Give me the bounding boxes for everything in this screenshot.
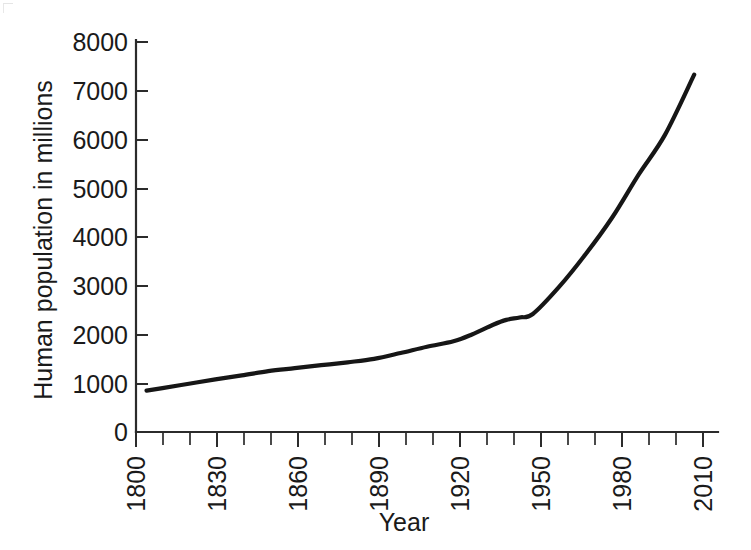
x-tick-label: 1980 (608, 456, 636, 512)
y-tick-label: 6000 (72, 126, 128, 154)
y-axis-ticks (136, 42, 148, 432)
y-tick-label: 3000 (72, 272, 128, 300)
x-tick-label: 1920 (446, 456, 474, 512)
x-tick-label: 1800 (122, 456, 150, 512)
x-tick-label: 1830 (203, 456, 231, 512)
y-tick-label: 4000 (72, 223, 128, 251)
x-axis-title: Year (379, 508, 430, 536)
chart-figure: 8000 7000 6000 5000 4000 3000 2000 1000 … (0, 0, 751, 550)
x-tick-label: 1950 (527, 456, 555, 512)
y-tick-label: 1000 (72, 370, 128, 398)
x-tick-label: 2010 (689, 456, 717, 512)
y-tick-label: 7000 (72, 77, 128, 105)
y-axis-tick-labels: 8000 7000 6000 5000 4000 3000 2000 1000 … (72, 28, 128, 446)
y-tick-label: 2000 (72, 321, 128, 349)
population-line (147, 75, 695, 391)
y-tick-label: 0 (114, 418, 128, 446)
line-chart: 8000 7000 6000 5000 4000 3000 2000 1000 … (0, 0, 751, 550)
y-tick-label: 5000 (72, 175, 128, 203)
x-tick-label: 1890 (365, 456, 393, 512)
x-axis-tick-labels: 1800 1830 1860 1890 1920 1950 1980 2010 (122, 456, 717, 512)
x-tick-label: 1860 (284, 456, 312, 512)
x-axis-ticks (136, 432, 703, 447)
y-axis-title: Human population in millions (29, 80, 57, 400)
y-tick-label: 8000 (72, 28, 128, 56)
